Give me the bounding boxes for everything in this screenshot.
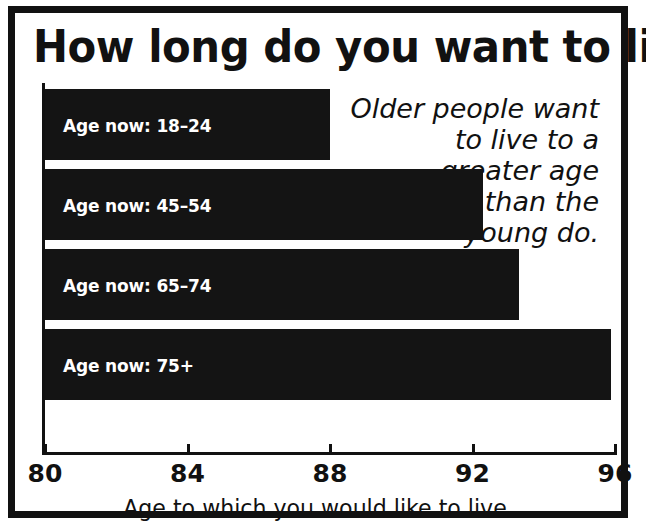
chart-frame: How long do you want to live? Older peop… bbox=[8, 6, 628, 518]
bar-age-45-54: Age now: 45–54 bbox=[45, 169, 483, 240]
x-tick-label: 80 bbox=[28, 459, 63, 488]
x-axis-title: Age to which you would like to live bbox=[65, 495, 564, 521]
bar-label: Age now: 18–24 bbox=[63, 114, 211, 135]
chart-title: How long do you want to live? bbox=[33, 21, 582, 73]
plot-area: Age now: 18–24 Age now: 45–54 Age now: 6… bbox=[42, 83, 615, 457]
x-tick-label: 92 bbox=[455, 459, 490, 488]
x-tick-label: 88 bbox=[313, 459, 348, 488]
bar-label: Age now: 45–54 bbox=[63, 194, 211, 215]
bar-age-75-plus: Age now: 75+ bbox=[45, 329, 611, 400]
bar-label: Age now: 65–74 bbox=[63, 274, 211, 295]
chart-figure: How long do you want to live? Older peop… bbox=[0, 0, 646, 531]
bar-age-65-74: Age now: 65–74 bbox=[45, 249, 519, 320]
bar-label: Age now: 75+ bbox=[63, 354, 194, 375]
x-tick-label: 96 bbox=[598, 459, 633, 488]
x-tick-label: 84 bbox=[170, 459, 205, 488]
bar-age-18-24: Age now: 18–24 bbox=[45, 89, 330, 160]
bar-series: Age now: 18–24 Age now: 45–54 Age now: 6… bbox=[45, 89, 615, 419]
